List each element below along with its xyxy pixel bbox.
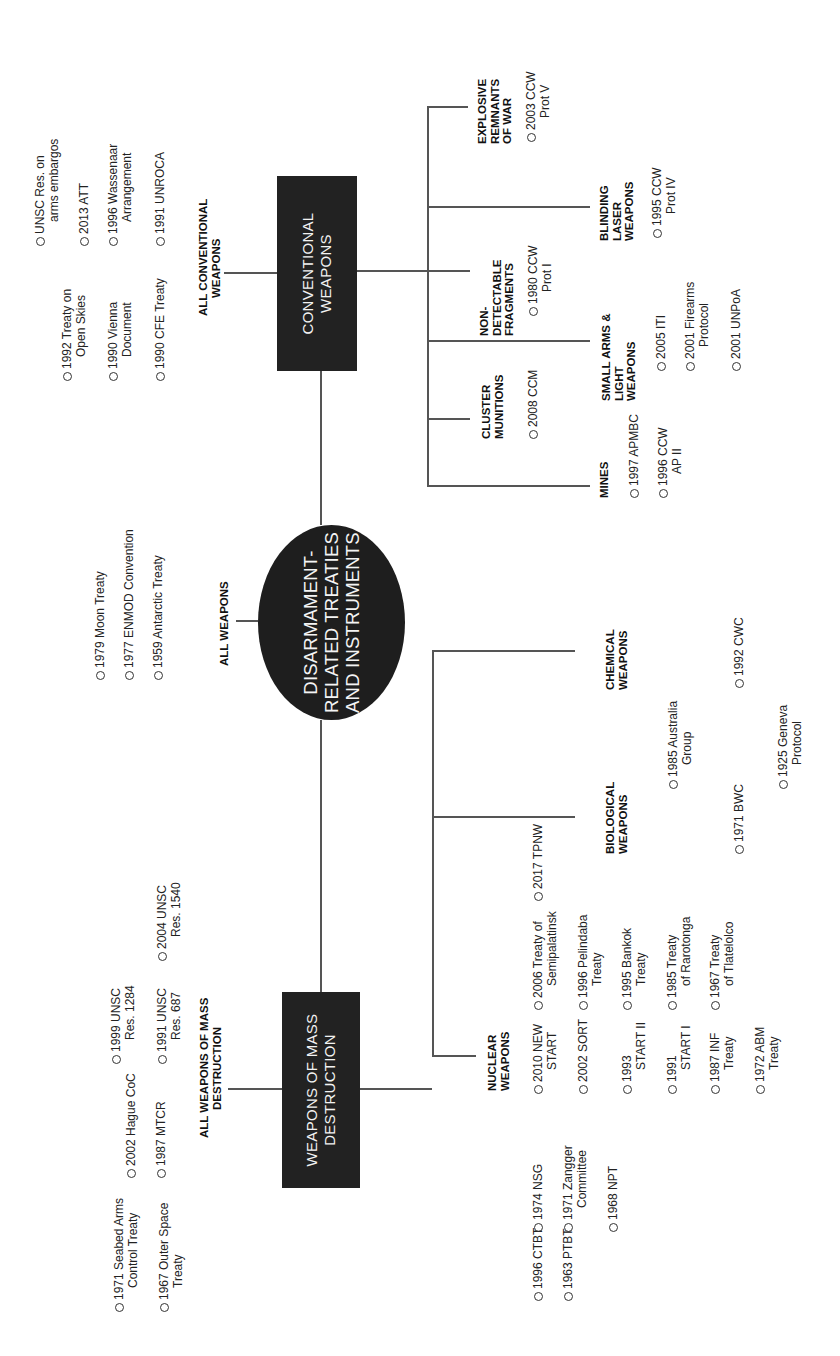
circle-bullet-icon	[534, 1292, 543, 1301]
category-all-weapons: ALL WEAPONS	[218, 581, 231, 666]
treaty-label: 1977 ENMOD Convention	[122, 529, 136, 668]
treaty-item: 1992 CWC	[732, 617, 746, 688]
category-label: WEAPONS	[625, 313, 638, 401]
category-label: EXPLOSIVE	[476, 79, 489, 144]
circle-bullet-icon	[534, 1223, 543, 1232]
treaty-label: 1971 BWC	[732, 784, 746, 842]
circle-bullet-icon	[609, 1223, 618, 1232]
treaty-label: 1996 Wassenaar	[106, 144, 120, 234]
category-label: DESTRUCTION	[211, 998, 224, 1138]
connector-all-weapons	[236, 621, 258, 623]
treaty-item: 2006 Treaty ofSemipalatinsk	[531, 911, 559, 1010]
treaty-item: 1971 Seabed ArmsControl Treaty	[112, 1198, 140, 1312]
treaty-label: 1991 UNROCA	[153, 152, 167, 234]
treaty-label: 1995 CCW	[650, 167, 664, 226]
circle-bullet-icon	[735, 679, 744, 688]
treaty-item: UNSC Res. onarms embargos	[33, 139, 61, 246]
treaty-label: 1992 Treaty on	[60, 289, 74, 369]
circle-bullet-icon	[80, 237, 89, 246]
treaty-label: 2001 UNPoA	[729, 289, 743, 359]
conventional-node-label: CONVENTIONAL	[299, 213, 317, 335]
category-label: WEAPONS	[617, 782, 630, 854]
treaty-label: 1992 CWC	[732, 617, 746, 676]
category-label: CLUSTER	[480, 374, 493, 439]
root-label-line: RELATED TREATIES	[321, 532, 342, 713]
treaty-label: 1997 APMBC	[627, 414, 641, 486]
treaty-item: 1977 ENMOD Convention	[122, 529, 136, 680]
treaty-item: 2003 CCWProt V	[524, 71, 552, 142]
treaty-item: 1996 CTBT	[531, 1228, 545, 1301]
treaty-label: 1967 Outer Space	[157, 1203, 171, 1300]
circle-bullet-icon	[157, 1169, 166, 1178]
treaty-label: 1991	[665, 1055, 679, 1082]
connector-cluster	[427, 419, 470, 421]
treaty-item: 1971 BWC	[732, 784, 746, 854]
treaty-label: 1968 NPT	[606, 1166, 620, 1220]
circle-bullet-icon	[653, 229, 662, 238]
circle-bullet-icon	[125, 671, 134, 680]
category-label: CHEMICAL	[604, 629, 617, 690]
treaty-label: Prot I	[540, 245, 554, 316]
circle-bullet-icon	[156, 237, 165, 246]
treaty-item: 1995 BankokTreaty	[620, 928, 648, 1010]
treaty-label: 1990 CFE Treaty	[153, 278, 167, 369]
treaty-label: Semipalatinsk	[545, 911, 559, 1010]
treaty-item: 1991 UNROCA	[153, 152, 167, 246]
circle-bullet-icon	[623, 1001, 632, 1010]
treaty-item: 2013 ATT	[77, 183, 91, 246]
treaty-label: 1996 CCW	[656, 427, 670, 486]
circle-bullet-icon	[534, 1085, 543, 1094]
treaty-item: 1967 Outer SpaceTreaty	[157, 1203, 185, 1312]
conventional-node: CONVENTIONAL WEAPONS	[277, 176, 357, 371]
treaty-label: 2004 UNSC	[155, 885, 169, 949]
circle-bullet-icon	[112, 1055, 121, 1064]
connector-root-conventional	[320, 371, 322, 525]
category-label: LIGHT	[613, 313, 626, 401]
connector-blinding	[427, 207, 590, 209]
circle-bullet-icon	[659, 489, 668, 498]
treaty-label: Arrangement	[120, 144, 134, 246]
treaty-label: Treaty	[722, 1033, 736, 1094]
circle-bullet-icon	[156, 372, 165, 381]
treaty-label: Treaty	[634, 928, 648, 1010]
category-label: WEAPONS	[499, 1032, 512, 1091]
treaty-item: 2002 SORT	[576, 1019, 590, 1094]
treaty-label: 1967 Treaty	[708, 935, 722, 998]
root-node: DISARMAMENT- RELATED TREATIES AND INSTRU…	[258, 525, 405, 720]
category-mines: MINES	[598, 462, 611, 498]
circle-bullet-icon	[96, 671, 105, 680]
circle-bullet-icon	[529, 307, 538, 316]
treaty-label: Res. 1284	[123, 985, 137, 1064]
treaty-item: 1996 PelindabaTreaty	[576, 915, 604, 1010]
treaty-item: 1985 AustraliaGroup	[666, 701, 694, 789]
treaty-item: 1959 Antarctic Treaty	[151, 555, 165, 680]
treaty-item: 1987 MTCR	[154, 1101, 168, 1178]
treaty-item: 1974 NSG	[531, 1164, 545, 1232]
treaty-label: 1990 Vienna	[106, 302, 120, 369]
treaty-item: 1980 CCWProt I	[526, 245, 554, 316]
treaty-label: 1925 Geneva	[776, 705, 790, 777]
treaty-label: Document	[120, 302, 134, 381]
treaty-label: AP II	[670, 427, 684, 498]
treaty-item: 1993START II	[620, 1022, 648, 1094]
circle-bullet-icon	[735, 845, 744, 854]
treaty-label: 1991 UNSC	[155, 988, 169, 1052]
treaty-label: 1979 Moon Treaty	[93, 571, 107, 668]
treaty-label: 1959 Antarctic Treaty	[151, 555, 165, 668]
circle-bullet-icon	[158, 1055, 167, 1064]
category-label: WEAPONS	[617, 629, 630, 690]
treaty-item: 1963 PTBT	[561, 1228, 575, 1301]
category-nuclear-weapons: NUCLEAR WEAPONS	[486, 1032, 511, 1091]
circle-bullet-icon	[127, 1169, 136, 1178]
circle-bullet-icon	[534, 892, 543, 901]
treaty-label: START II	[634, 1022, 648, 1094]
disarmament-diagram: DISARMAMENT- RELATED TREATIES AND INSTRU…	[0, 0, 840, 1356]
treaty-label: Protocol	[697, 282, 711, 371]
category-label: ALL CONVENTIONAL	[197, 199, 210, 316]
treaty-label: 1972 ABM	[753, 1027, 767, 1082]
treaty-label: START	[545, 1024, 559, 1094]
connector-all-conventional	[224, 273, 277, 275]
treaty-label: Res. 687	[169, 988, 183, 1064]
treaty-item: 1968 NPT	[606, 1166, 620, 1232]
connector-erw	[427, 107, 468, 109]
